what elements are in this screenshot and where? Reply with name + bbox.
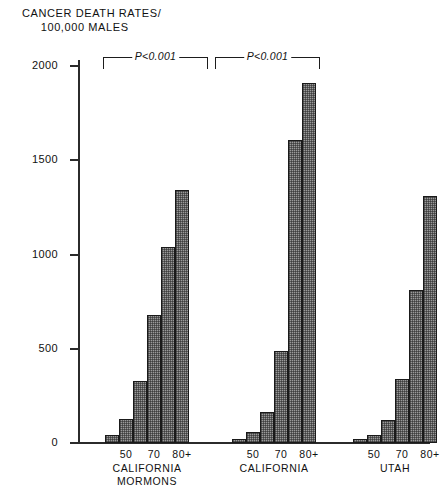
p-value-bracket-2: P<0.001 [215,57,320,69]
bar [246,432,260,443]
cancer-death-rates-bar-chart: CANCER DEATH RATES/ 100,000 MALES 050010… [0,0,443,493]
y-tick-500 [70,348,80,350]
group-label-line-1: CALIFORNIA [112,462,181,475]
bar [302,83,316,443]
p-value-label: P<0.001 [244,50,292,62]
group-label-california-mormons: CALIFORNIAMORMONS [112,462,181,488]
group-label-line-1: CALIFORNIA [239,462,308,475]
bar [119,419,133,443]
bar [260,412,274,443]
bar [367,435,381,443]
y-tick-2000 [70,65,80,67]
y-tick-label-500: 500 [0,342,58,354]
bar [353,439,367,443]
x-tick-label-california-80+: 80+ [299,448,318,460]
x-tick-label-california-mormons-70: 70 [148,448,161,460]
y-tick-label-2000: 2000 [0,59,58,71]
group-label-line-2: MORMONS [112,475,181,488]
chart-title-line-2: 100,000 MALES [22,20,161,34]
group-label-utah: UTAH [380,462,410,475]
bar [232,439,246,443]
bar [423,196,437,443]
y-tick-label-1500: 1500 [0,153,58,165]
x-tick-label-utah-50: 50 [368,448,381,460]
y-tick-label-1000: 1000 [0,248,58,260]
chart-title-line-1: CANCER DEATH RATES/ [22,6,161,20]
p-value-bracket-1: P<0.001 [103,57,208,69]
y-tick-label-0: 0 [0,436,58,448]
y-tick-1500 [70,159,80,161]
p-value-label: P<0.001 [132,50,180,62]
x-tick-label-california-70: 70 [275,448,288,460]
y-tick-1000 [70,254,80,256]
x-tick-label-california-50: 50 [247,448,260,460]
bar [175,190,189,443]
bar [133,381,147,443]
group-label-california: CALIFORNIA [239,462,308,475]
x-tick-label-california-mormons-80+: 80+ [172,448,191,460]
x-tick-label-utah-70: 70 [396,448,409,460]
bar [105,435,119,443]
bar [274,351,288,443]
bar [409,290,423,443]
group-label-line-1: UTAH [380,462,410,475]
bar [288,140,302,443]
bar [161,247,175,443]
y-tick-0 [70,442,80,444]
chart-title: CANCER DEATH RATES/ 100,000 MALES [22,6,161,34]
bars-layer [80,59,430,443]
bar [395,379,409,443]
bar [147,315,161,443]
x-tick-label-utah-80+: 80+ [420,448,439,460]
x-tick-label-california-mormons-50: 50 [120,448,133,460]
bar [381,420,395,443]
